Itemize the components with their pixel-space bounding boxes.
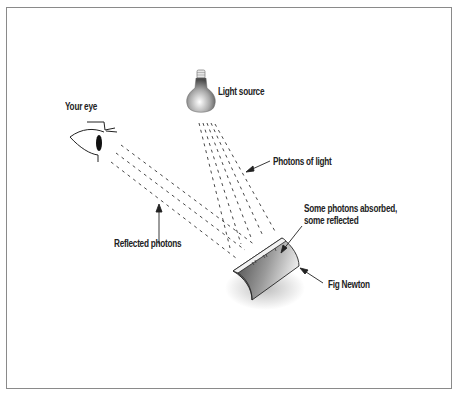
label-absorbed-line2: some reflected (304, 215, 358, 226)
label-fig-newton: Fig Newton (328, 279, 370, 290)
arrow-fig-newton (300, 268, 308, 274)
incident-photon-rays (199, 123, 276, 248)
diagram-art (0, 0, 461, 394)
label-light-source: Light source (218, 86, 264, 97)
label-your-eye: Your eye (65, 101, 97, 112)
label-photons-of-light: Photons of light (273, 156, 331, 167)
label-reflected-photons: Reflected photons (114, 238, 181, 249)
arrow-photons (246, 166, 254, 172)
light-bulb-icon (187, 70, 216, 112)
label-absorbed-line1: Some photons absorbed, (304, 203, 397, 214)
arrow-reflected (156, 204, 162, 212)
eye-icon (70, 122, 117, 162)
